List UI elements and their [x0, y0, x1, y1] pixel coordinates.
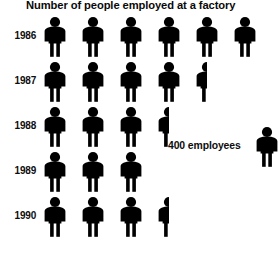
- person-icon: [156, 16, 182, 57]
- person-icon: [42, 196, 68, 237]
- person-icon: [42, 151, 68, 192]
- person-icon: [80, 151, 106, 192]
- person-icon: [80, 61, 106, 102]
- chart-legend: 400 employees: [168, 126, 278, 170]
- icons-track-1986: [42, 14, 270, 59]
- legend-label: 400 employees: [168, 140, 252, 151]
- pictogram-row: 1990: [0, 194, 278, 239]
- person-icon: [118, 16, 144, 57]
- row-label-1987: 1987: [0, 75, 36, 86]
- person-icon: [118, 61, 144, 102]
- person-icon: [194, 16, 220, 57]
- person-icon: [42, 61, 68, 102]
- person-icon: [80, 196, 106, 237]
- person-icon: [118, 106, 144, 147]
- pictogram-chart: Number of people employed at a factory 1…: [0, 0, 278, 255]
- chart-title: Number of people employed at a factory: [26, 0, 235, 11]
- person-icon: [156, 61, 182, 102]
- pictogram-row: 1987: [0, 59, 278, 104]
- person-icon: [80, 106, 106, 147]
- row-label-1988: 1988: [0, 120, 36, 131]
- pictogram-row: 1986: [0, 14, 278, 59]
- person-icon-partial: [194, 61, 207, 102]
- row-label-1989: 1989: [0, 165, 36, 176]
- row-label-1990: 1990: [0, 210, 36, 221]
- person-icon-partial: [156, 196, 169, 237]
- icons-track-1987: [42, 59, 232, 104]
- person-icon: [42, 106, 68, 147]
- person-icon: [118, 196, 144, 237]
- icons-track-1990: [42, 194, 194, 239]
- row-label-1986: 1986: [0, 30, 36, 41]
- person-icon: [42, 16, 68, 57]
- person-icon: [80, 16, 106, 57]
- person-icon: [118, 151, 144, 192]
- legend-person-icon: [254, 126, 278, 167]
- icons-track-1989: [42, 149, 156, 194]
- person-icon: [232, 16, 258, 57]
